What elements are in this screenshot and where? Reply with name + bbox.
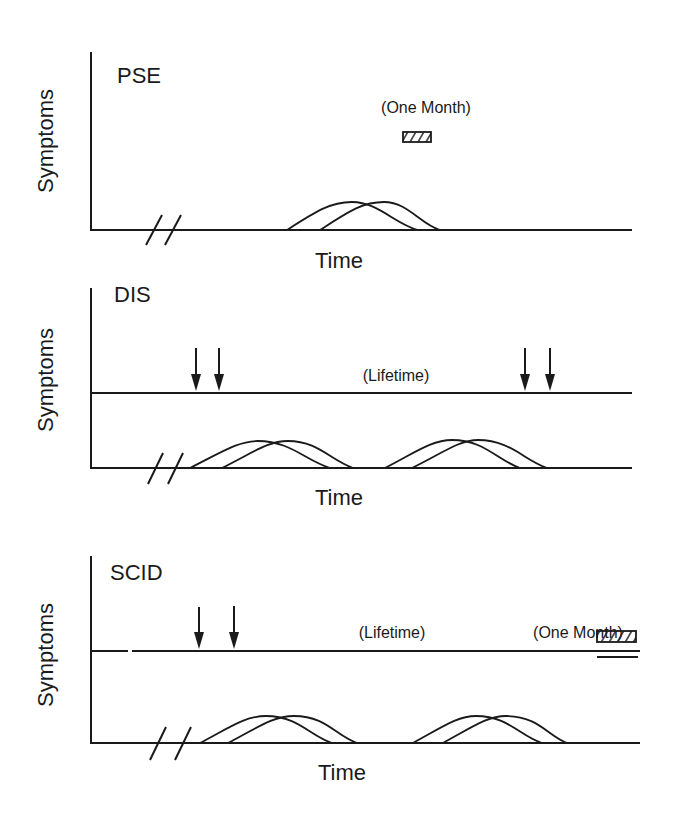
x-axis-label: Time [315, 485, 363, 510]
panel-title: SCID [110, 560, 163, 585]
episode-curves [190, 440, 547, 468]
episode-curves [287, 202, 440, 230]
x-axis-label: Time [318, 760, 366, 785]
lifetime-label: (Lifetime) [363, 367, 430, 384]
panel-pse: PSE Symptoms Time (One Month) [33, 52, 632, 273]
arrow-down-icon [191, 348, 201, 391]
arrow-down-icon [229, 606, 239, 649]
panel-title: DIS [114, 282, 151, 307]
y-axis-label: Symptoms [33, 603, 58, 707]
panel-dis: DIS Symptoms Time (Lifetime) [33, 282, 632, 510]
one-month-window-box [597, 631, 636, 642]
panel-title: PSE [117, 63, 161, 88]
y-axis-label: Symptoms [33, 89, 58, 193]
one-month-window-box [403, 132, 431, 142]
arrow-down-icon [194, 607, 204, 649]
y-axis-label: Symptoms [33, 328, 58, 432]
lifetime-label: (Lifetime) [359, 624, 426, 641]
x-axis-label: Time [315, 248, 363, 273]
diagram-canvas: PSE Symptoms Time (One Month) DIS Sympto… [0, 0, 673, 822]
arrow-down-icon [520, 348, 530, 391]
arrow-down-icon [214, 348, 224, 391]
panel-scid: SCID Symptoms Time (Lifetime) (One Month… [33, 556, 640, 785]
one-month-label: (One Month) [381, 99, 471, 116]
episode-curves [200, 716, 567, 743]
arrow-down-icon [545, 348, 555, 391]
